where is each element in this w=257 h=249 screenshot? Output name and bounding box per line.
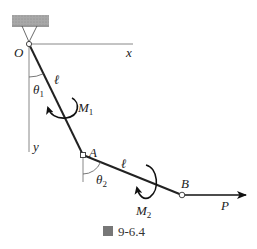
label-moment1: M1 (77, 100, 93, 117)
label-link2-length: ℓ (121, 156, 127, 171)
caption-number: 9-6.4 (118, 224, 146, 239)
label-theta2: θ2 (96, 172, 107, 189)
theta1-arc (29, 74, 44, 77)
label-link1-length: ℓ (54, 72, 60, 87)
joint-o-icon (26, 41, 31, 46)
figure-caption: 9-6.4 (103, 224, 146, 239)
double-pendulum-diagram: O x y ℓ θ1 M1 A θ2 ℓ M2 B P 9-6.4 (0, 0, 257, 249)
label-x-axis: x (125, 45, 132, 60)
label-theta1: θ1 (33, 82, 44, 99)
joint-a-icon (81, 153, 86, 158)
caption-figure-icon (103, 226, 113, 236)
label-moment2: M2 (135, 203, 151, 220)
label-origin: O (14, 45, 24, 60)
ground-support (12, 15, 49, 42)
label-y-axis: y (31, 139, 39, 154)
label-joint-a: A (88, 145, 97, 160)
label-joint-b: B (181, 176, 189, 191)
joint-b-icon (179, 192, 185, 198)
label-force-p: P (220, 198, 229, 213)
